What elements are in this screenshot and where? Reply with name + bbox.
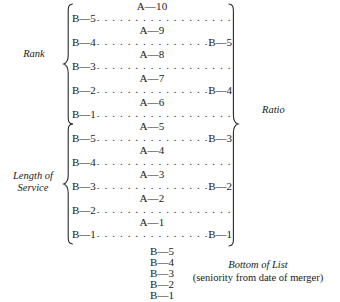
- dot-leader: . . . . . . . . . . . . . . . . . . . . …: [97, 179, 207, 191]
- entry-label-b-left: B—2: [72, 204, 96, 216]
- rank-ratio-row-list: A—10B—5. . . . . . . . . . . . . . . . .…: [72, 0, 232, 240]
- dot-leader: . . . . . . . . . . . . . . . . . . . . …: [97, 155, 231, 167]
- dot-leader: . . . . . . . . . . . . . . . . . . . . …: [97, 83, 207, 95]
- dot-leader: . . . . . . . . . . . . . . . . . . . . …: [97, 203, 231, 215]
- dot-leader: . . . . . . . . . . . . . . . . . . . . …: [97, 35, 207, 47]
- entry-label-b-left: B—5: [72, 12, 96, 24]
- bottom-list-item: B—1: [132, 290, 192, 301]
- group-label-rank: Rank: [6, 48, 62, 60]
- entry-label-b-left: B—4: [72, 36, 96, 48]
- dot-leader: . . . . . . . . . . . . . . . . . . . . …: [97, 107, 231, 119]
- group-label-length-of-service: Length of Service: [2, 170, 64, 194]
- entry-label-b-left: B—3: [72, 60, 96, 72]
- entry-label-b-left: B—1: [72, 108, 96, 120]
- entry-row-b: B—4. . . . . . . . . . . . . . . . . . .…: [72, 36, 232, 48]
- entry-label-b-right: B—5: [208, 36, 232, 48]
- entry-row-b: B—1. . . . . . . . . . . . . . . . . . .…: [72, 228, 232, 240]
- entry-label-b-right: B—4: [208, 84, 232, 96]
- entry-row-b: B—3. . . . . . . . . . . . . . . . . . .…: [72, 180, 232, 192]
- dot-leader: . . . . . . . . . . . . . . . . . . . . …: [97, 11, 231, 23]
- entry-label-b-right: B—3: [208, 132, 232, 144]
- entry-row-b: B—2. . . . . . . . . . . . . . . . . . .…: [72, 84, 232, 96]
- entry-label-b-right: B—1: [208, 228, 232, 240]
- entry-label-b-right: B—2: [208, 180, 232, 192]
- group-label-ratio: Ratio: [262, 104, 322, 116]
- bottom-of-list-caption: Bottom of List (seniority from date of m…: [176, 258, 340, 284]
- entry-label-b-left: B—3: [72, 180, 96, 192]
- entry-row-b: B—3. . . . . . . . . . . . . . . . . . .…: [72, 60, 232, 72]
- entry-label-b-left: B—1: [72, 228, 96, 240]
- bottom-of-list-title: Bottom of List: [176, 258, 340, 271]
- entry-row-b: B—1. . . . . . . . . . . . . . . . . . .…: [72, 108, 232, 120]
- dot-leader: . . . . . . . . . . . . . . . . . . . . …: [97, 227, 207, 239]
- entry-row-b: B—5. . . . . . . . . . . . . . . . . . .…: [72, 12, 232, 24]
- entry-label-b-left: B—5: [72, 132, 96, 144]
- entry-row-b: B—4. . . . . . . . . . . . . . . . . . .…: [72, 156, 232, 168]
- dot-leader: . . . . . . . . . . . . . . . . . . . . …: [97, 131, 207, 143]
- entry-label-b-left: B—2: [72, 84, 96, 96]
- entry-label-b-left: B—4: [72, 156, 96, 168]
- bottom-of-list-subtitle: (seniority from date of merger): [176, 271, 340, 284]
- seniority-integration-diagram: Rank Length of Service Ratio A—10B—5. . …: [0, 0, 340, 302]
- entry-row-b: B—2. . . . . . . . . . . . . . . . . . .…: [72, 204, 232, 216]
- entry-row-b: B—5. . . . . . . . . . . . . . . . . . .…: [72, 132, 232, 144]
- dot-leader: . . . . . . . . . . . . . . . . . . . . …: [97, 59, 231, 71]
